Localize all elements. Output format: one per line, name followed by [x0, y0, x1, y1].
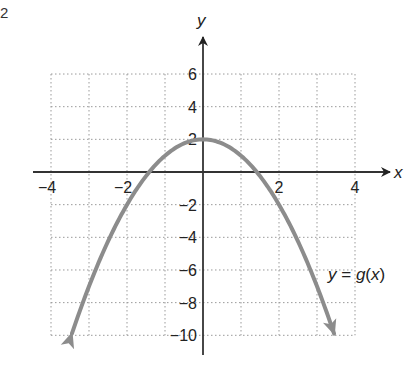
y-axis-label: y [196, 11, 207, 30]
parabola-chart: x y −4−224642−2−4−6−8−10 y = g(x) [0, 0, 418, 368]
svg-text:−8: −8 [179, 295, 197, 312]
function-label: y = g(x) [327, 265, 385, 284]
svg-text:2: 2 [275, 179, 284, 196]
svg-text:6: 6 [188, 66, 197, 83]
svg-text:−6: −6 [179, 262, 197, 279]
svg-text:−2: −2 [114, 179, 132, 196]
svg-text:−10: −10 [170, 327, 197, 344]
svg-text:4: 4 [188, 99, 197, 116]
svg-text:4: 4 [351, 179, 360, 196]
svg-text:−2: −2 [179, 197, 197, 214]
svg-text:−4: −4 [179, 229, 197, 246]
x-axis-label: x [393, 163, 403, 182]
svg-text:−4: −4 [38, 179, 56, 196]
